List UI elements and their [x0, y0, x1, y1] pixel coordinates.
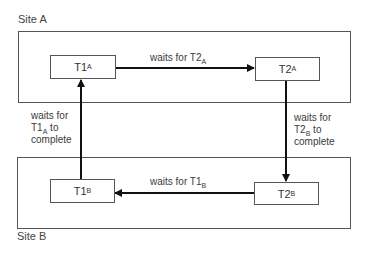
edge-label-t1b-t1a: waits for T1A to complete	[31, 110, 72, 146]
edge-label-target: T1	[31, 122, 43, 133]
node-t1a-label: T1	[74, 61, 87, 73]
edge-label-suffix: to	[310, 124, 321, 135]
edge-label-subscript: B	[202, 182, 207, 189]
edge-label-line3: complete	[31, 134, 72, 146]
edge-label-line1: waits for	[294, 112, 335, 124]
edge-label-target: T2	[190, 52, 202, 63]
node-t2a: T2A	[255, 57, 320, 81]
edge-label-line2: T2B to	[294, 124, 335, 136]
node-t1b: T1B	[50, 179, 115, 203]
node-t1a: T1A	[50, 55, 116, 79]
edge-label-t1a-t2a: waits for T2A	[150, 52, 206, 64]
edge-label-text: waits for	[150, 52, 190, 63]
edge-label-subscript: A	[202, 58, 207, 65]
edge-label-line3: complete	[294, 136, 335, 148]
node-t2a-label: T2	[279, 63, 292, 75]
node-t2b: T2B	[254, 182, 319, 205]
edge-label-t2b-t1b: waits for T1B	[150, 176, 206, 188]
edge-label-t2a-t2b: waits for T2B to complete	[294, 112, 335, 148]
edge-label-target: T2	[294, 124, 306, 135]
edge-label-line1: waits for	[31, 110, 72, 122]
edge-label-line2: T1A to	[31, 122, 72, 134]
node-t1b-label: T1	[74, 185, 87, 197]
edge-label-text: waits for	[150, 176, 190, 187]
edge-label-suffix: to	[47, 122, 58, 133]
edge-label-target: T1	[190, 176, 202, 187]
node-t2b-label: T2	[278, 188, 291, 200]
